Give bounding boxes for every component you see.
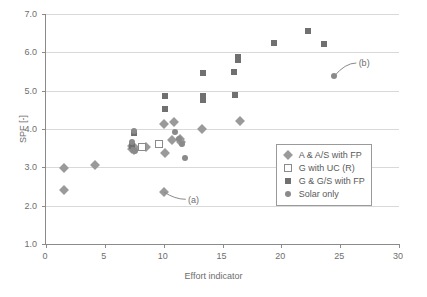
y-axis-tick-label: 7.0 xyxy=(24,10,37,19)
annotation-label: (b) xyxy=(359,59,370,68)
gridline xyxy=(46,206,399,207)
legend-marker-glyph xyxy=(283,150,293,160)
data-point xyxy=(138,143,146,151)
y-axis-tick xyxy=(42,52,46,53)
legend-item[interactable]: G with UC (R) xyxy=(282,162,365,175)
y-axis-tick-label: 3.0 xyxy=(24,163,37,172)
data-point xyxy=(231,69,237,75)
data-point xyxy=(305,28,311,34)
data-point xyxy=(235,116,245,126)
data-point xyxy=(59,163,69,173)
x-axis-tick-label: 10 xyxy=(158,252,168,261)
x-axis-tick xyxy=(164,244,165,248)
y-axis-tick xyxy=(42,14,46,15)
data-point xyxy=(321,41,327,47)
data-point xyxy=(169,117,179,127)
y-axis-tick xyxy=(42,91,46,92)
legend-marker-circle-icon xyxy=(282,188,294,201)
data-point xyxy=(160,148,170,158)
legend-item-label: G & G/S with FP xyxy=(299,177,365,186)
x-axis-title: Effort indicator xyxy=(0,271,427,281)
data-point xyxy=(271,40,277,46)
data-point xyxy=(132,148,138,154)
legend-marker-diamond-icon xyxy=(282,149,294,162)
data-point xyxy=(232,92,238,98)
data-point xyxy=(200,70,206,76)
data-point xyxy=(129,139,135,145)
gridline xyxy=(46,91,399,92)
x-axis-tick xyxy=(281,244,282,248)
y-axis-tick-label: 6.0 xyxy=(24,48,37,57)
scatter-chart: SPF [-] Effort indicator A & A/S with FP… xyxy=(0,0,427,297)
y-axis-tick xyxy=(42,167,46,168)
data-point xyxy=(198,124,208,134)
x-axis-tick-label: 15 xyxy=(216,252,226,261)
gridline xyxy=(46,14,399,15)
legend-item-label: A & A/S with FP xyxy=(299,151,362,160)
legend-marker-square-icon xyxy=(282,175,294,188)
legend-marker-open-square-icon xyxy=(282,162,294,175)
y-axis-tick xyxy=(42,129,46,130)
data-point xyxy=(131,128,137,134)
data-point xyxy=(172,129,178,135)
legend-item-label: Solar only xyxy=(299,190,339,199)
data-point xyxy=(59,185,69,195)
x-axis-tick-label: 5 xyxy=(101,252,106,261)
plot-area xyxy=(45,14,399,245)
legend: A & A/S with FPG with UC (R)G & G/S with… xyxy=(276,144,372,206)
legend-marker-glyph xyxy=(285,191,291,197)
y-axis-tick-label: 4.0 xyxy=(24,125,37,134)
x-axis-tick xyxy=(399,244,400,248)
data-point xyxy=(162,106,168,112)
data-point xyxy=(179,141,185,147)
data-point xyxy=(159,119,169,129)
x-axis-tick-label: 0 xyxy=(42,252,47,261)
x-axis-tick-label: 30 xyxy=(393,252,403,261)
legend-item[interactable]: Solar only xyxy=(282,188,365,201)
data-point xyxy=(90,160,100,170)
legend-marker-glyph xyxy=(285,178,291,184)
legend-marker-glyph xyxy=(284,164,292,172)
gridline xyxy=(46,52,399,53)
y-axis-tick-label: 2.0 xyxy=(24,202,37,211)
annotation-leader-line xyxy=(162,190,188,201)
legend-item[interactable]: G & G/S with FP xyxy=(282,175,365,188)
data-point xyxy=(182,155,188,161)
legend-item-label: G with UC (R) xyxy=(299,164,355,173)
x-axis-tick xyxy=(46,244,47,248)
y-axis-tick-label: 5.0 xyxy=(24,87,37,96)
x-axis-tick-label: 25 xyxy=(334,252,344,261)
data-point xyxy=(235,57,241,63)
y-axis-tick-label: 1.0 xyxy=(24,240,37,249)
x-axis-tick xyxy=(223,244,224,248)
legend-item[interactable]: A & A/S with FP xyxy=(282,149,365,162)
annotation-label: (a) xyxy=(188,196,199,205)
x-axis-tick xyxy=(105,244,106,248)
gridline xyxy=(46,129,399,130)
data-point xyxy=(155,140,163,148)
data-point xyxy=(200,97,206,103)
x-axis-tick-label: 20 xyxy=(275,252,285,261)
y-axis-tick xyxy=(42,206,46,207)
annotation-leader-line xyxy=(332,61,358,78)
data-point xyxy=(162,93,168,99)
x-axis-tick xyxy=(340,244,341,248)
